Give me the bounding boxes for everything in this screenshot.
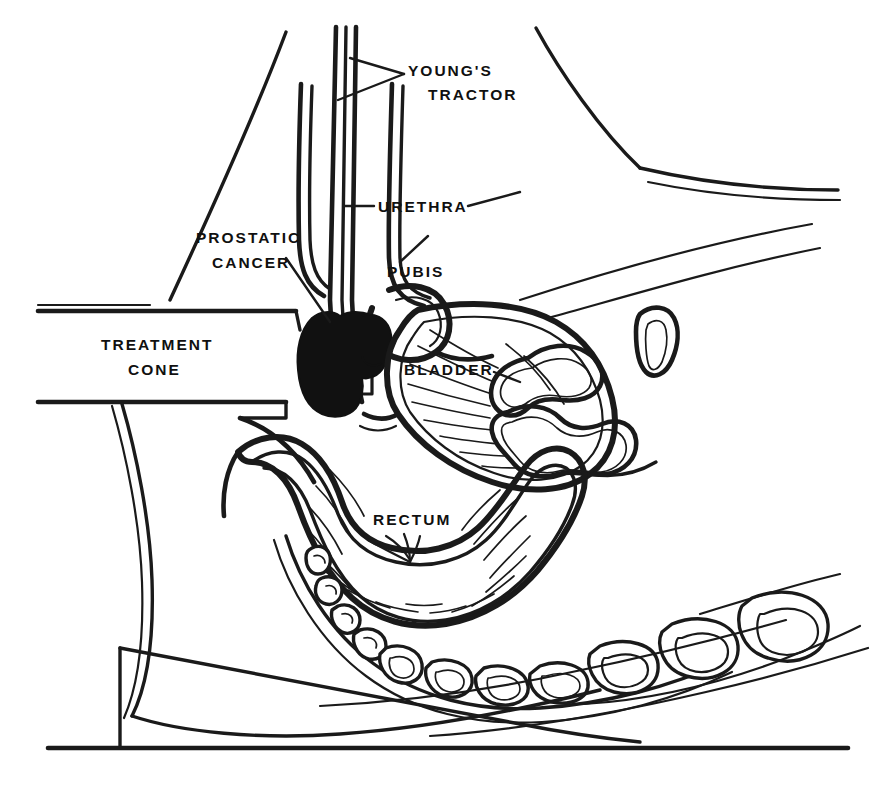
label-youngs-tractor-line1: YOUNG'S [408, 62, 493, 79]
label-urethra: URETHRA [378, 198, 468, 215]
anatomical-diagram-figure: YOUNG'S TRACTOR URETHRA PUBIS PROSTATIC … [0, 0, 895, 790]
label-rectum: RECTUM [373, 511, 451, 528]
label-bladder: BLADDER [404, 361, 494, 378]
diagram-canvas: YOUNG'S TRACTOR URETHRA PUBIS PROSTATIC … [0, 0, 895, 790]
label-youngs-tractor-line2: TRACTOR [428, 86, 518, 103]
label-pubis: PUBIS [387, 263, 444, 280]
label-treatment-cone-line2: CONE [128, 361, 181, 378]
label-prostatic-cancer-line1: PROSTATIC [196, 229, 301, 246]
label-treatment-cone-line1: TREATMENT [101, 336, 213, 353]
label-prostatic-cancer-line2: CANCER [212, 254, 290, 271]
